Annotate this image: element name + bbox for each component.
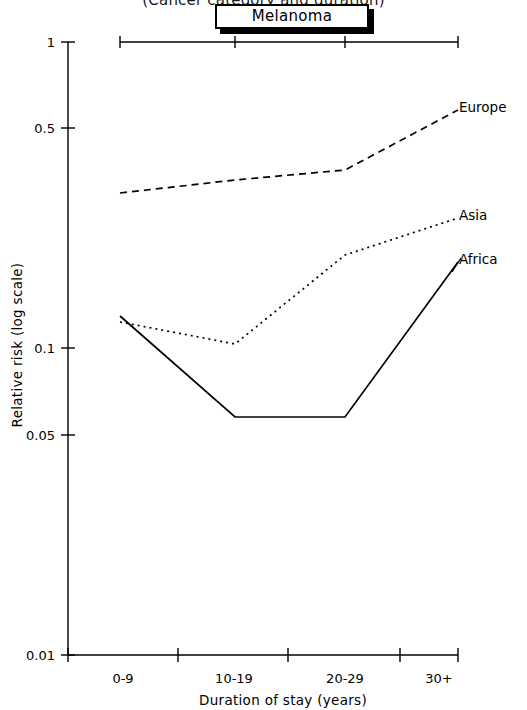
series-line-europe bbox=[120, 110, 458, 193]
x-tick-label-20-29: 20-29 bbox=[326, 671, 364, 686]
melanoma-relative-risk-chart: (Cancer category and duration) Melanoma … bbox=[0, 0, 527, 710]
series-label-africa: Africa bbox=[459, 251, 498, 267]
y-axis-title: Relative risk (log scale) bbox=[9, 263, 25, 428]
y-tick-label-1: 1 bbox=[47, 35, 55, 50]
y-tick-label-0p1: 0.1 bbox=[34, 341, 55, 356]
series-label-asia: Asia bbox=[459, 207, 487, 223]
x-tick-label-30plus: 30+ bbox=[425, 671, 452, 686]
x-tick-label-10-19: 10-19 bbox=[215, 671, 253, 686]
series-line-africa bbox=[120, 262, 458, 417]
x-axis-title: Duration of stay (years) bbox=[199, 692, 367, 708]
plot-area: 1 0.5 0.1 0.05 0.01 0-9 10-19 20-29 30+ … bbox=[0, 0, 527, 710]
series-line-asia bbox=[120, 218, 458, 344]
y-tick-label-0p5: 0.5 bbox=[34, 121, 55, 136]
y-tick-label-0p05: 0.05 bbox=[26, 428, 55, 443]
series-label-europe: Europe bbox=[459, 99, 506, 115]
y-tick-label-0p01: 0.01 bbox=[26, 648, 55, 663]
x-tick-label-0-9: 0-9 bbox=[112, 671, 133, 686]
